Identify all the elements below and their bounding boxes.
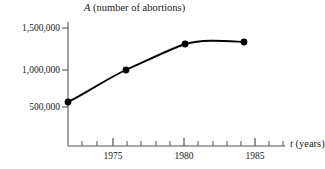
y-tick-label-1500000: 1,500,000: [4, 23, 60, 33]
data-point-markers: [65, 39, 248, 106]
y-axis-variable: A: [84, 2, 90, 13]
x-axis-variable: t: [290, 138, 293, 149]
x-tick-label-1985: 1985: [246, 151, 265, 161]
data-series-line: [68, 41, 244, 102]
x-tick-label-1980: 1980: [175, 151, 194, 161]
x-tick-label-1975: 1975: [104, 151, 123, 161]
x-axis-minor-ticks: [82, 141, 283, 146]
y-axis-ticks: [62, 28, 68, 107]
x-axis-title: t (years): [290, 138, 325, 149]
x-axis-units: (years): [296, 138, 325, 149]
data-point: [65, 99, 72, 106]
y-axis-title: A (number of abortions): [84, 2, 185, 13]
y-tick-label-500000: 500,000: [4, 102, 60, 112]
x-axis-major-ticks: [113, 138, 255, 146]
data-point: [241, 39, 248, 46]
data-point: [182, 41, 189, 48]
y-axis-units: (number of abortions): [93, 2, 185, 13]
data-point: [123, 67, 130, 74]
y-tick-label-1000000: 1,000,000: [4, 65, 60, 75]
